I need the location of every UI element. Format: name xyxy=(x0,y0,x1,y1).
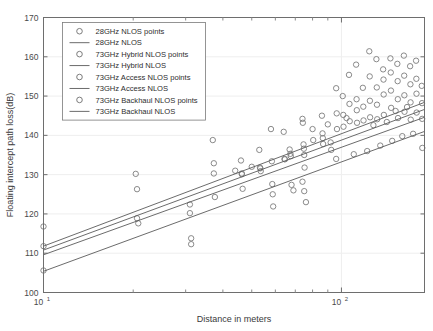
data-point xyxy=(134,186,139,191)
data-point xyxy=(291,188,296,193)
data-point xyxy=(300,120,305,125)
data-point xyxy=(353,62,358,67)
fit-line xyxy=(44,131,425,271)
data-point xyxy=(402,93,407,98)
y-tick-label: 170 xyxy=(24,13,38,23)
y-tick-label: 160 xyxy=(24,52,38,62)
data-point xyxy=(300,179,305,184)
data-point xyxy=(367,49,372,54)
data-point xyxy=(367,98,372,103)
fit-line xyxy=(44,109,425,250)
data-point xyxy=(374,85,379,90)
data-point xyxy=(395,61,400,66)
fit-lines-group xyxy=(44,102,425,271)
data-point xyxy=(310,126,315,131)
data-point xyxy=(408,100,413,105)
data-point xyxy=(334,111,339,116)
x-axis-title: Distance in meters xyxy=(197,314,272,324)
data-point xyxy=(371,122,376,127)
data-point xyxy=(354,97,359,102)
data-point xyxy=(319,113,324,118)
y-tick-label: 150 xyxy=(24,91,38,101)
x-tick-mantissa: 10 xyxy=(332,297,342,307)
data-point xyxy=(367,115,372,120)
legend-item-label: 73GHz Backhaul NLOS xyxy=(96,107,176,116)
data-point xyxy=(407,64,412,69)
data-point xyxy=(361,118,366,123)
data-point xyxy=(388,88,393,93)
legend-item-label: 28GHz NLOS xyxy=(96,38,142,47)
data-point xyxy=(281,129,286,134)
data-point xyxy=(360,85,365,90)
data-point xyxy=(380,67,385,72)
data-point xyxy=(401,53,406,58)
legend-item-label: 73GHz Hybrid NLOS xyxy=(96,61,166,70)
data-point xyxy=(347,119,352,124)
y-tick-label: 130 xyxy=(24,170,38,180)
legend: 28GHz NLOS points28GHz NLOS73GHz Hybrid … xyxy=(63,23,206,121)
data-point xyxy=(210,137,215,142)
data-point xyxy=(270,192,275,197)
data-point xyxy=(268,126,273,131)
data-point xyxy=(395,97,400,102)
data-point xyxy=(257,147,262,152)
fit-line xyxy=(44,117,425,255)
y-tick-label: 120 xyxy=(24,209,38,219)
data-point xyxy=(238,158,243,163)
legend-item-label: 73GHz Backhaul NLOS points xyxy=(96,96,198,105)
data-point xyxy=(381,77,386,82)
legend-box xyxy=(63,23,206,121)
data-point xyxy=(401,73,406,78)
data-point xyxy=(187,210,192,215)
x-tick-mantissa: 10 xyxy=(34,297,44,307)
data-point xyxy=(211,171,216,176)
data-point xyxy=(413,58,418,63)
data-point xyxy=(414,76,419,81)
y-axis-title: Floating intercept path loss(dB) xyxy=(5,93,15,218)
data-point xyxy=(367,74,372,79)
data-point xyxy=(333,86,338,91)
data-point xyxy=(361,104,366,109)
legend-item-label: 73GHz Hybrid NLOS points xyxy=(96,50,189,59)
data-point xyxy=(212,194,217,199)
data-point xyxy=(270,204,275,209)
data-point xyxy=(400,133,405,138)
data-point xyxy=(388,70,393,75)
scatter-plot: 100110120130140150160170 101102 28GHz NL… xyxy=(0,0,433,331)
legend-item-label: 73GHz Access NLOS points xyxy=(96,73,191,82)
legend-item-label: 28GHz NLOS points xyxy=(96,27,165,36)
data-point xyxy=(325,122,330,127)
data-point xyxy=(133,171,138,176)
data-point xyxy=(351,152,356,157)
data-point xyxy=(240,186,245,191)
x-tick-label: 102 xyxy=(332,296,349,307)
data-point xyxy=(302,188,307,193)
data-point xyxy=(334,126,339,131)
data-point xyxy=(311,137,316,142)
figure-container: 100110120130140150160170 101102 28GHz NL… xyxy=(0,0,433,331)
data-point xyxy=(408,82,413,87)
x-tick-label: 101 xyxy=(34,296,51,307)
data-point xyxy=(354,120,359,125)
data-point xyxy=(395,78,400,83)
data-point xyxy=(333,156,338,161)
data-point xyxy=(289,182,294,187)
y-tick-label: 140 xyxy=(24,130,38,140)
x-tick-exponent: 2 xyxy=(345,296,349,302)
y-tick-label: 110 xyxy=(25,248,39,258)
data-point xyxy=(211,161,216,166)
data-point xyxy=(188,241,193,246)
legend-item-label: 73GHz Access NLOS xyxy=(96,84,169,93)
data-point xyxy=(374,102,379,107)
data-point xyxy=(344,115,349,120)
data-point xyxy=(302,165,307,170)
data-point xyxy=(303,199,308,204)
data-point xyxy=(347,101,352,106)
x-tick-exponent: 1 xyxy=(47,296,51,302)
data-point xyxy=(346,72,351,77)
data-point xyxy=(188,236,193,241)
data-point xyxy=(419,83,424,88)
data-point xyxy=(354,108,359,113)
data-point xyxy=(270,181,275,186)
